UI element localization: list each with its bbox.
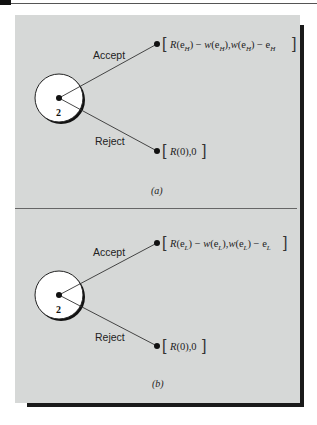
accept-payoff-formula: R(eH) − w(eH),w(eH) − eH bbox=[169, 39, 276, 53]
node-dot bbox=[56, 292, 62, 298]
accept-label: Accept bbox=[93, 49, 125, 61]
payoff-open-bracket: [ bbox=[162, 234, 167, 251]
accept-terminal-dot bbox=[154, 240, 160, 246]
payoff-close-bracket: ] bbox=[202, 337, 206, 354]
player-label: 2 bbox=[56, 304, 61, 315]
reject-payoff-formula: R(0),0 bbox=[169, 146, 197, 158]
accept-terminal-dot bbox=[154, 41, 160, 47]
payoff-open-bracket: [ bbox=[162, 142, 167, 159]
reject-label: Reject bbox=[95, 331, 125, 343]
subfigure-a: 2 Accept Reject [ R(eH) − w(eH),w(eH) − … bbox=[35, 35, 296, 197]
payoff-open-bracket: [ bbox=[162, 35, 167, 52]
reject-terminal-dot bbox=[154, 343, 160, 349]
subfigure-b: 2 Accept Reject [ R(eL) − w(eL),w(eL) − … bbox=[35, 234, 287, 390]
caption-b: (b) bbox=[152, 378, 164, 390]
reject-payoff-formula: R(0),0 bbox=[169, 341, 197, 353]
payoff-close-bracket: ] bbox=[292, 35, 296, 52]
game-tree-figure: 2 Accept Reject [ R(eH) − w(eH),w(eH) − … bbox=[0, 0, 317, 425]
reject-terminal-dot bbox=[154, 148, 160, 154]
player-label: 2 bbox=[56, 107, 61, 118]
payoff-close-bracket: ] bbox=[202, 142, 206, 159]
payoff-open-bracket: [ bbox=[162, 337, 167, 354]
accept-payoff-formula: R(eL) − w(eL),w(eL) − eL bbox=[169, 238, 271, 252]
node-dot bbox=[56, 95, 62, 101]
caption-a: (a) bbox=[151, 185, 163, 197]
reject-label: Reject bbox=[95, 135, 125, 147]
payoff-close-bracket: ] bbox=[283, 234, 287, 251]
accept-label: Accept bbox=[93, 246, 125, 258]
